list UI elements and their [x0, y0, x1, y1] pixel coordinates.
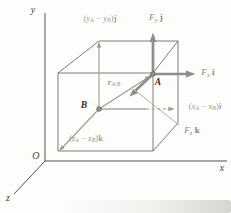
box-depth-bottom-right-edge	[153, 123, 178, 151]
force-x-label: Fx i	[201, 68, 214, 77]
point-b-label: B	[81, 101, 87, 111]
comp-y-label: (yA − yB)j	[83, 14, 116, 24]
position-vector-label: rA/B	[108, 78, 121, 88]
point-a-label: A	[155, 78, 161, 88]
comp-x-arrowhead	[168, 107, 175, 111]
force-y-arrowhead	[150, 33, 157, 43]
origin-label: O	[32, 151, 39, 161]
comp-x-label: (xA − xB)i	[189, 102, 222, 112]
z-axis-line	[14, 161, 45, 194]
force-z-label: Fz k	[184, 126, 200, 135]
force-z-arrow-shaft	[136, 74, 154, 91]
force-x-arrowhead	[186, 71, 196, 78]
box-depth-top-left-edge	[58, 41, 99, 73]
scan-artifact	[56, 200, 231, 213]
point-b-marker	[97, 107, 102, 112]
comp-z-label: (zA − zB)k	[69, 134, 103, 144]
vector-diagram: y x z O A B Fy j Fx i Fz k (yA − yB)j (x…	[0, 0, 231, 213]
box-depth-top-right-edge	[153, 41, 178, 73]
point-a-marker	[151, 72, 156, 77]
force-vectors	[130, 33, 196, 97]
fz-label-pointer-line	[136, 91, 179, 125]
force-y-label: Fy j	[149, 13, 163, 22]
x-axis-label: x	[220, 163, 225, 173]
y-axis-label: y	[31, 5, 36, 15]
z-axis-label: z	[6, 193, 10, 203]
